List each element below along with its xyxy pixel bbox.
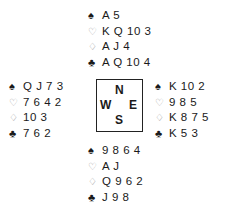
heart-icon: ♡ (9, 95, 23, 111)
diamond-icon: ♢ (88, 174, 102, 190)
north-hearts: ♡K Q 10 3 (88, 24, 151, 40)
north-hand: ♠A 5 ♡K Q 10 3 ♢A J 4 ♣A Q 10 4 (88, 8, 151, 70)
west-clubs: ♣7 6 2 (9, 126, 64, 142)
heart-icon: ♡ (155, 95, 169, 111)
west-hand: ♠Q J 7 3 ♡7 6 4 2 ♢10 3 ♣7 6 2 (9, 79, 64, 141)
club-icon: ♣ (155, 126, 169, 142)
east-hearts: ♡9 8 5 (155, 95, 209, 111)
compass-east: E (129, 98, 137, 112)
south-diamonds: ♢Q 9 6 2 (88, 174, 143, 190)
west-diamonds: ♢10 3 (9, 110, 64, 126)
diamond-icon: ♢ (155, 110, 169, 126)
south-hearts: ♡A J (88, 159, 143, 175)
west-hearts: ♡7 6 4 2 (9, 95, 64, 111)
compass-west: W (100, 98, 111, 112)
east-diamonds: ♢K 8 7 5 (155, 110, 209, 126)
north-spades: ♠A 5 (88, 8, 151, 24)
spade-icon: ♠ (88, 143, 102, 159)
south-spades: ♠9 8 6 4 (88, 143, 143, 159)
diamond-icon: ♢ (9, 110, 23, 126)
east-clubs: ♣K 5 3 (155, 126, 209, 142)
compass-box: N W E S (96, 79, 143, 132)
north-clubs: ♣A Q 10 4 (88, 55, 151, 71)
west-spades: ♠Q J 7 3 (9, 79, 64, 95)
club-icon: ♣ (88, 190, 102, 206)
compass-north: N (115, 83, 124, 97)
compass-south: S (115, 113, 123, 127)
east-spades: ♠K 10 2 (155, 79, 209, 95)
south-clubs: ♣J 9 8 (88, 190, 143, 206)
north-diamonds: ♢A J 4 (88, 39, 151, 55)
club-icon: ♣ (9, 126, 23, 142)
east-hand: ♠K 10 2 ♡9 8 5 ♢K 8 7 5 ♣K 5 3 (155, 79, 209, 141)
heart-icon: ♡ (88, 159, 102, 175)
heart-icon: ♡ (88, 24, 102, 40)
south-hand: ♠9 8 6 4 ♡A J ♢Q 9 6 2 ♣J 9 8 (88, 143, 143, 205)
diamond-icon: ♢ (88, 39, 102, 55)
club-icon: ♣ (88, 55, 102, 71)
spade-icon: ♠ (88, 8, 102, 24)
spade-icon: ♠ (9, 79, 23, 95)
spade-icon: ♠ (155, 79, 169, 95)
